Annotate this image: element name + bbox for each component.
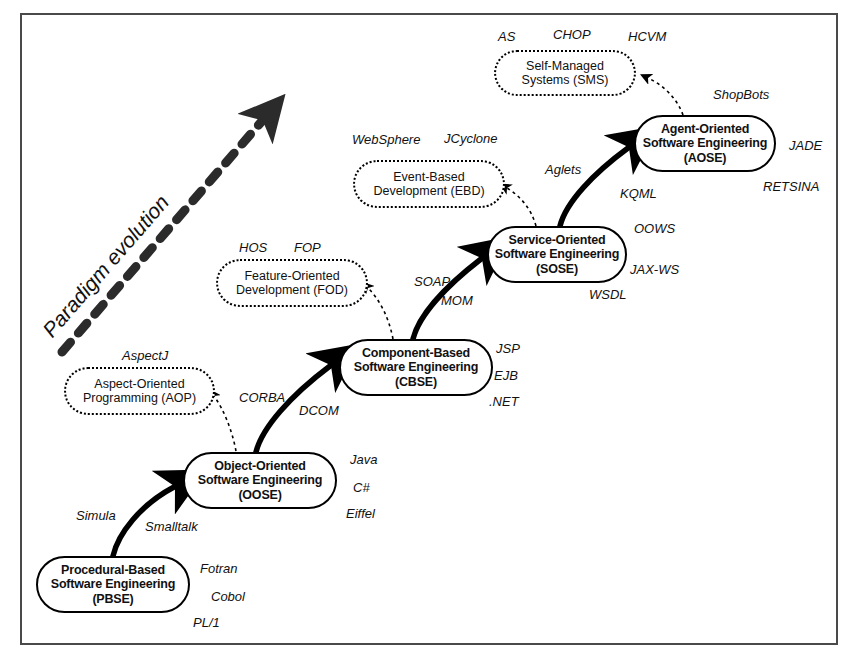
transition-label-mom: MOM	[441, 293, 473, 308]
node-aose-line3: (AOSE)	[684, 151, 727, 165]
diagram-canvas: Paradigm evolution Procedural-Based Soft…	[0, 0, 858, 664]
tech-ebd-websphere: WebSphere	[352, 132, 420, 147]
tech-ebd-jcyclone: JCyclone	[444, 131, 497, 146]
node-sms[interactable]: Self-Managed Systems (SMS)	[494, 50, 636, 96]
node-sose-label: Service-Oriented Software Engineering (S…	[489, 233, 625, 276]
node-cbse[interactable]: Component-Based Software Engineering (CB…	[339, 339, 493, 396]
tech-sose-wsdl: WSDL	[589, 287, 627, 302]
tech-sms-as: AS	[498, 29, 515, 44]
node-aose-line2: Software Engineering	[643, 136, 768, 150]
node-sose[interactable]: Service-Oriented Software Engineering (S…	[487, 226, 627, 283]
tech-oose-csharp: C#	[353, 480, 370, 495]
node-oose[interactable]: Object-Oriented Software Engineering (OO…	[183, 452, 337, 509]
node-aop[interactable]: Aspect-Oriented Programming (AOP)	[64, 367, 215, 415]
node-oose-line2: Software Engineering	[198, 473, 323, 487]
transition-label-aglets: Aglets	[545, 162, 581, 177]
node-fod-line1: Feature-Oriented	[244, 269, 339, 283]
diagram-frame	[20, 13, 838, 645]
transition-label-smalltalk: Smalltalk	[145, 519, 198, 534]
transition-label-dcom: DCOM	[299, 403, 339, 418]
node-pbse[interactable]: Procedural-Based Software Engineering (P…	[36, 556, 190, 613]
node-aose[interactable]: Agent-Oriented Software Engineering (AOS…	[634, 115, 776, 172]
transition-label-kqml: KQML	[620, 186, 657, 201]
node-cbse-label: Component-Based Software Engineering (CB…	[341, 346, 491, 389]
node-sose-line1: Service-Oriented	[509, 233, 606, 247]
node-pbse-label: Procedural-Based Software Engineering (P…	[38, 563, 188, 606]
node-oose-line1: Object-Oriented	[214, 459, 305, 473]
transition-label-simula: Simula	[76, 508, 116, 523]
tech-cbse-jsp: JSP	[496, 341, 520, 356]
node-ebd-label: Event-Based Development (EBD)	[355, 170, 503, 199]
node-cbse-line3: (CBSE)	[395, 375, 437, 389]
tech-aose-jade: JADE	[789, 138, 822, 153]
node-sose-line3: (SOSE)	[536, 262, 578, 276]
tech-fod-hos: HOS	[239, 240, 267, 255]
tech-fod-fop: FOP	[294, 240, 321, 255]
node-ebd[interactable]: Event-Based Development (EBD)	[353, 160, 505, 208]
tech-sose-jaxws: JAX-WS	[630, 262, 679, 277]
tech-cbse-net: .NET	[489, 394, 519, 409]
node-ebd-line2: Development (EBD)	[373, 184, 484, 198]
transition-label-soap: SOAP	[414, 274, 450, 289]
node-fod[interactable]: Feature-Oriented Development (FOD)	[216, 259, 368, 307]
node-aop-label: Aspect-Oriented Programming (AOP)	[66, 377, 213, 406]
node-sms-line1: Self-Managed	[526, 59, 604, 73]
tech-sms-hcvm: HCVM	[628, 29, 666, 44]
node-oose-label: Object-Oriented Software Engineering (OO…	[185, 459, 335, 502]
tech-aop-aspectj: AspectJ	[122, 348, 168, 363]
node-aop-line1: Aspect-Oriented	[94, 377, 184, 391]
tech-pbse-cobol: Cobol	[211, 589, 245, 604]
node-aose-line1: Agent-Oriented	[661, 122, 749, 136]
node-sms-label: Self-Managed Systems (SMS)	[496, 59, 634, 88]
node-ebd-line1: Event-Based	[393, 170, 465, 184]
tech-sms-chop: CHOP	[553, 27, 591, 42]
node-oose-line3: (OOSE)	[238, 488, 281, 502]
tech-cbse-ejb: EJB	[494, 368, 518, 383]
node-fod-line2: Development (FOD)	[236, 283, 348, 297]
node-cbse-line1: Component-Based	[362, 346, 470, 360]
node-sose-line2: Software Engineering	[495, 247, 620, 261]
tech-sose-oows: OOWS	[634, 221, 675, 236]
node-aop-line2: Programming (AOP)	[83, 391, 196, 405]
node-pbse-line1: Procedural-Based	[61, 563, 165, 577]
tech-pbse-fotran: Fotran	[200, 561, 238, 576]
node-sms-line2: Systems (SMS)	[522, 73, 609, 87]
tech-pbse-pl1: PL/1	[193, 615, 220, 630]
node-pbse-line3: (PBSE)	[92, 592, 133, 606]
tech-aose-shopbots: ShopBots	[713, 87, 769, 102]
node-aose-label: Agent-Oriented Software Engineering (AOS…	[636, 122, 774, 165]
tech-oose-eiffel: Eiffel	[346, 506, 375, 521]
tech-oose-java: Java	[350, 452, 377, 467]
node-fod-label: Feature-Oriented Development (FOD)	[218, 269, 366, 298]
node-pbse-line2: Software Engineering	[51, 577, 176, 591]
tech-aose-retsina: RETSINA	[763, 179, 819, 194]
transition-label-corba: CORBA	[239, 390, 285, 405]
node-cbse-line2: Software Engineering	[354, 360, 479, 374]
